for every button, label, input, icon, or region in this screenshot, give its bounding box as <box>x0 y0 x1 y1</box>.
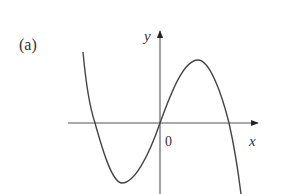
graph-figure: (a) y 0 x <box>0 0 283 194</box>
x-axis-label: x <box>248 133 256 149</box>
panel-label: (a) <box>19 36 37 54</box>
origin-label: 0 <box>165 134 172 149</box>
y-axis-label: y <box>142 28 151 44</box>
